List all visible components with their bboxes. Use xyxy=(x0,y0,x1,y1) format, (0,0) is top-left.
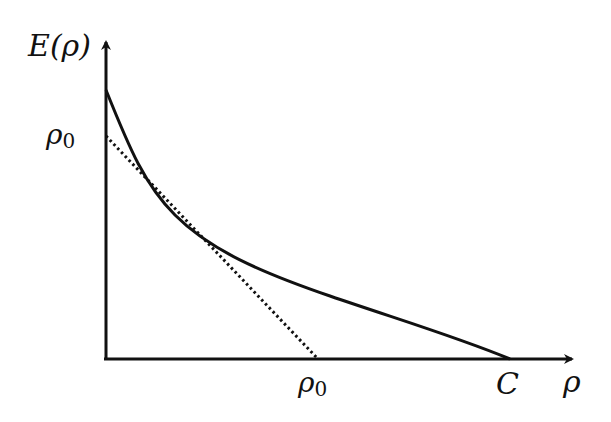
figure: E(ρ) ρ0 ρ0 C ρ xyxy=(0,0,611,422)
x-axis-label: ρ xyxy=(562,364,581,399)
tangent-line xyxy=(106,136,318,359)
x-tick-c: C xyxy=(496,366,519,401)
energy-curve xyxy=(106,90,510,359)
x-tick-rho0: ρ0 xyxy=(297,366,327,401)
y-tick-rho0: ρ0 xyxy=(45,118,75,153)
chart-svg: E(ρ) ρ0 ρ0 C ρ xyxy=(0,0,611,422)
y-axis-label: E(ρ) xyxy=(27,28,91,63)
